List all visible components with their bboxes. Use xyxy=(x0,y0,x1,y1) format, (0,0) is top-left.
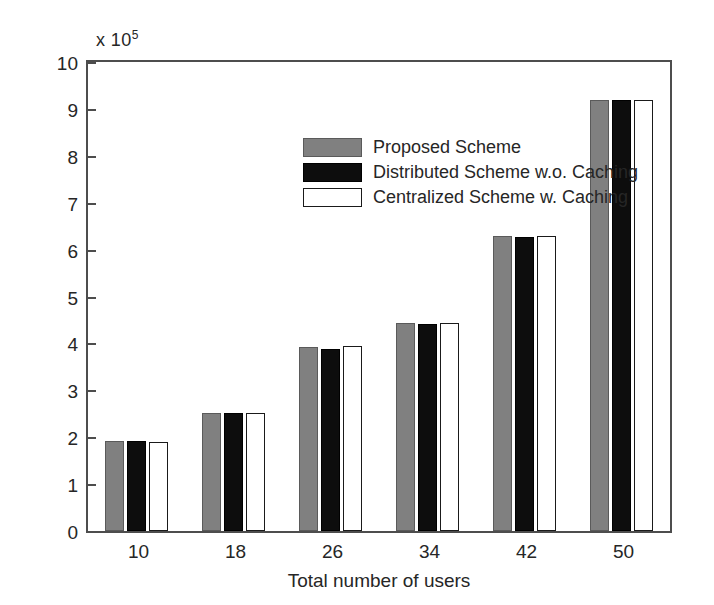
y-axis-tick-label: 3 xyxy=(67,381,78,403)
legend-label-distributed-scheme: Distributed Scheme w.o. Caching xyxy=(373,162,638,183)
y-axis-tick: 1 xyxy=(87,484,96,486)
bar xyxy=(127,441,146,531)
y-axis-tick-label: 4 xyxy=(67,334,78,356)
legend-entry: Centralized Scheme w. Caching xyxy=(303,187,638,208)
bar xyxy=(440,323,459,531)
bar xyxy=(537,236,556,531)
y-axis-tick-label: 9 xyxy=(67,100,78,122)
bar xyxy=(321,349,340,531)
bar-group xyxy=(202,413,265,531)
bar xyxy=(515,237,534,531)
x-axis-tick-label: 34 xyxy=(419,541,440,563)
bar xyxy=(224,413,243,531)
bar xyxy=(299,347,318,531)
bar xyxy=(343,346,362,531)
bar xyxy=(246,413,265,531)
bar xyxy=(105,441,124,531)
bar-group xyxy=(299,346,362,531)
y-axis-tick-label: 7 xyxy=(67,194,78,216)
x-axis-tick-label: 42 xyxy=(516,541,537,563)
y-axis-tick: 6 xyxy=(87,250,96,252)
y-axis-tick: 3 xyxy=(87,390,96,392)
x-axis-title: Total number of users xyxy=(86,570,672,592)
y-axis-tick-label: 2 xyxy=(67,428,78,450)
y-axis-tick: 7 xyxy=(87,203,96,205)
bar-chart-figure: x 105 Computing revenue of MVNO 01234567… xyxy=(0,0,714,605)
y-axis-tick-label: 10 xyxy=(57,53,78,75)
legend-entry: Proposed Scheme xyxy=(303,137,638,158)
x-axis-tick-label: 18 xyxy=(225,541,246,563)
y-axis-tick: 8 xyxy=(87,156,96,158)
bar-group xyxy=(396,323,459,531)
y-axis-tick: 4 xyxy=(87,343,96,345)
y-axis-multiplier-exponent: 5 xyxy=(132,28,139,42)
x-axis-tick-label: 26 xyxy=(322,541,343,563)
bar-group xyxy=(105,441,168,531)
y-axis-tick: 2 xyxy=(87,437,96,439)
x-axis-tick-label: 50 xyxy=(613,541,634,563)
legend-swatch-distributed-scheme xyxy=(303,163,362,182)
bar xyxy=(396,323,415,531)
y-axis-tick-label: 1 xyxy=(67,475,78,497)
y-axis-tick: 5 xyxy=(87,297,96,299)
legend-swatch-centralized-scheme xyxy=(303,188,362,207)
y-axis-tick: 9 xyxy=(87,109,96,111)
legend-label-proposed-scheme: Proposed Scheme xyxy=(373,137,521,158)
y-axis-tick-label: 6 xyxy=(67,241,78,263)
x-axis-tick-label: 10 xyxy=(128,541,149,563)
plot-area: 012345678910 101826344250 Proposed Schem… xyxy=(86,60,672,533)
y-axis-multiplier: x 105 xyxy=(96,28,139,51)
bar xyxy=(202,413,221,531)
bar xyxy=(418,324,437,531)
legend-label-centralized-scheme: Centralized Scheme w. Caching xyxy=(373,187,628,208)
bar xyxy=(149,442,168,531)
legend-entry: Distributed Scheme w.o. Caching xyxy=(303,162,638,183)
y-axis-tick: 10 xyxy=(87,62,96,64)
y-axis-tick-label: 5 xyxy=(67,288,78,310)
bar xyxy=(493,236,512,531)
bar-group xyxy=(493,236,556,531)
chart-legend: Proposed Scheme Distributed Scheme w.o. … xyxy=(303,137,638,208)
y-axis-tick: 0 xyxy=(87,531,96,533)
y-axis-multiplier-base: x 10 xyxy=(96,30,132,50)
y-axis-tick-label: 0 xyxy=(67,522,78,544)
legend-swatch-proposed-scheme xyxy=(303,138,362,157)
y-axis-tick-label: 8 xyxy=(67,147,78,169)
